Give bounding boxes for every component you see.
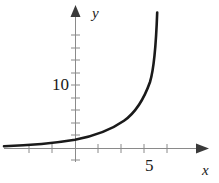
exponential-curve: [4, 13, 157, 147]
plot-canvas: [0, 0, 219, 183]
x-axis-label: x: [202, 163, 209, 178]
y-axis-label: y: [92, 6, 99, 21]
y-axis-arrowhead: [71, 5, 81, 17]
x-tick-label-5: 5: [145, 157, 154, 174]
y-tick-label-10: 10: [52, 76, 69, 93]
x-axis-arrowhead: [196, 144, 209, 154]
exponential-graph-figure: y x 10 5: [0, 0, 219, 183]
